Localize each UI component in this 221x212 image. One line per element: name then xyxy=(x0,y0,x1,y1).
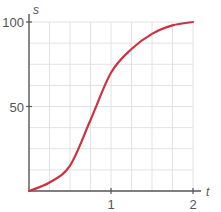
axes xyxy=(26,14,201,194)
grid-lines xyxy=(29,22,193,191)
x-tick-label-2: 2 xyxy=(189,197,196,212)
y-tick-label-50: 50 xyxy=(10,100,24,115)
x-axis-label: t xyxy=(206,185,210,199)
x-tick-label-1: 1 xyxy=(107,197,114,212)
y-tick-label-100: 100 xyxy=(2,15,24,30)
line-chart: 100 50 1 2 s t xyxy=(0,0,221,212)
y-axis-label: s xyxy=(33,3,39,17)
chart-container: 100 50 1 2 s t xyxy=(0,0,221,212)
